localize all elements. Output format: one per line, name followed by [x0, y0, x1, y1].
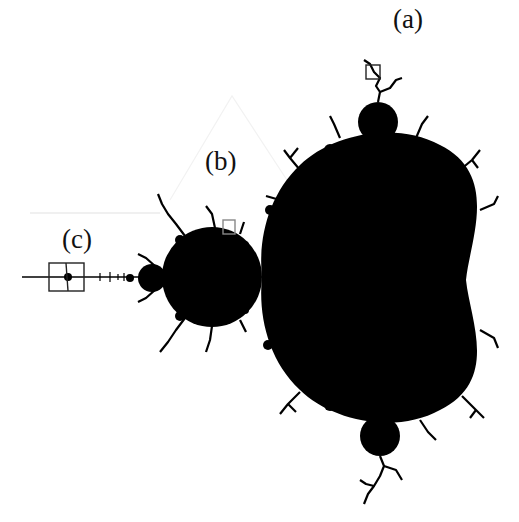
label-a: (a) — [393, 6, 423, 33]
label-c: (c) — [62, 226, 92, 253]
mandelbrot-figure: (a) (b) (c) — [0, 0, 519, 522]
label-b: (b) — [205, 148, 236, 175]
mandelbrot-set-graphic — [0, 0, 519, 522]
